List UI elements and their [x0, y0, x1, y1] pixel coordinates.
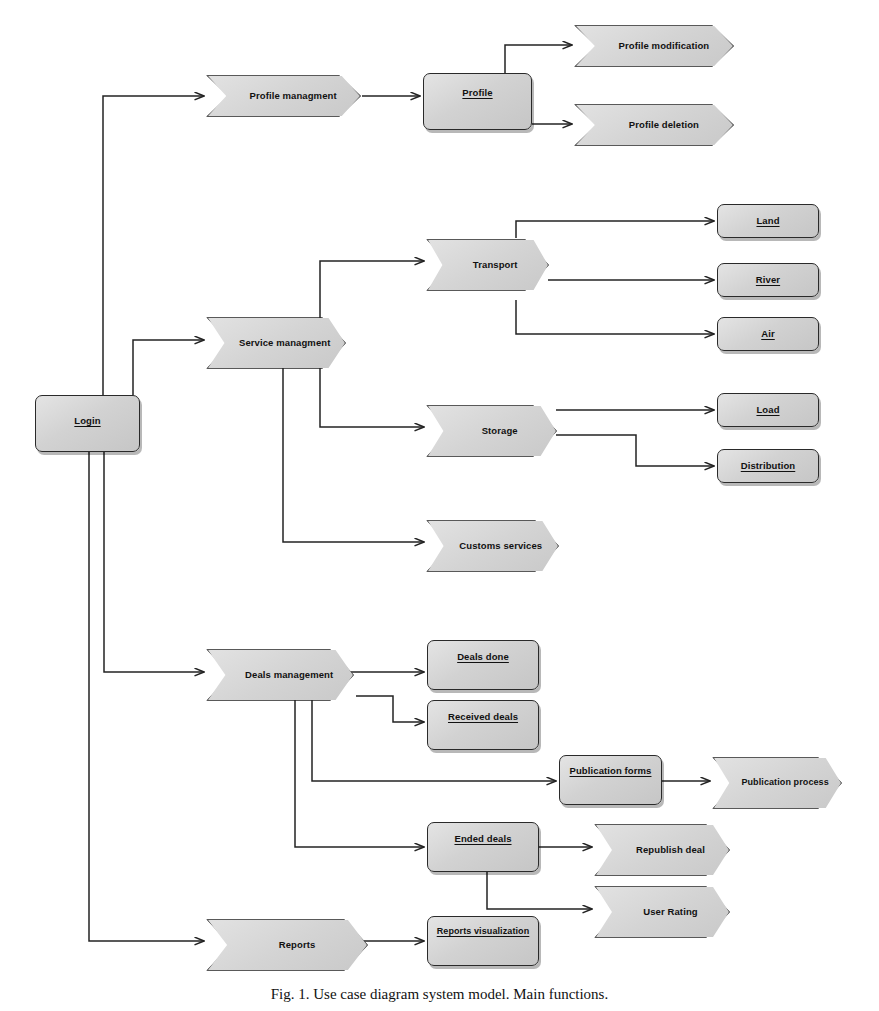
node-reports[interactable]: Reports	[208, 920, 367, 970]
node-received-deals-body	[427, 700, 539, 750]
edge-login-service-management	[133, 340, 204, 395]
node-service-management-body	[208, 318, 345, 368]
node-distribution-body	[717, 449, 819, 483]
edge-profile-profile-modification	[505, 45, 572, 73]
node-customs-services[interactable]: Customs services	[428, 521, 558, 571]
node-load[interactable]: Load	[717, 393, 819, 427]
node-deals-done-body	[427, 640, 539, 690]
edge-login-profile-management	[103, 96, 204, 395]
node-reports-visualization[interactable]: Reports visualization	[427, 916, 539, 966]
node-profile-body	[423, 73, 532, 130]
node-deals-management-body	[208, 650, 353, 700]
node-reports-body	[208, 920, 367, 970]
edge-ended-deals-user-rating	[487, 872, 592, 909]
node-publication-forms[interactable]: Publication forms	[559, 755, 662, 805]
node-storage-body	[428, 406, 556, 456]
node-deals-management[interactable]: Deals management	[208, 650, 353, 700]
node-received-deals[interactable]: Received deals	[427, 700, 539, 750]
node-profile-modification-body	[576, 26, 733, 66]
node-river-body	[717, 263, 819, 297]
edge-service-management-customs-services	[283, 368, 424, 542]
node-profile-modification[interactable]: Profile modification	[576, 26, 733, 66]
node-distribution[interactable]: Distribution	[717, 449, 819, 483]
edge-storage-distribution	[556, 435, 714, 466]
node-user-rating[interactable]: User Rating	[596, 887, 729, 937]
edge-service-management-storage	[320, 368, 424, 427]
edge-deals-management-received-deals	[356, 696, 424, 722]
edge-deals-management-ended-deals	[295, 698, 424, 847]
edge-transport-air	[516, 300, 714, 334]
node-service-management[interactable]: Service managment	[208, 318, 345, 368]
node-reports-visualization-body	[427, 916, 539, 966]
node-air[interactable]: Air	[717, 317, 819, 351]
node-profile-deletion-body	[576, 105, 733, 145]
figure-caption: Fig. 1. Use case diagram system model. M…	[0, 986, 879, 1003]
node-air-body	[717, 317, 819, 351]
node-republish-deal-body	[596, 825, 729, 875]
node-publication-forms-body	[559, 755, 662, 805]
node-load-body	[717, 393, 819, 427]
node-profile-deletion[interactable]: Profile deletion	[576, 105, 733, 145]
node-publication-process[interactable]: Publication process	[714, 758, 841, 808]
node-publication-process-body	[714, 758, 841, 808]
node-land-body	[717, 204, 819, 238]
node-user-rating-body	[596, 887, 729, 937]
node-login-body	[35, 395, 140, 452]
node-storage[interactable]: Storage	[428, 406, 556, 456]
edge-service-management-transport	[320, 261, 424, 318]
node-deals-done[interactable]: Deals done	[427, 640, 539, 690]
node-river[interactable]: River	[717, 263, 819, 297]
node-transport-body	[428, 240, 548, 290]
node-login[interactable]: Login	[35, 395, 140, 452]
node-land[interactable]: Land	[717, 204, 819, 238]
node-customs-services-body	[428, 521, 558, 571]
edge-login-reports	[89, 452, 204, 941]
node-profile[interactable]: Profile	[423, 73, 532, 130]
node-republish-deal[interactable]: Republish deal	[596, 825, 729, 875]
node-ended-deals[interactable]: Ended deals	[427, 822, 539, 872]
edge-transport-land	[516, 221, 714, 238]
node-profile-management[interactable]: Profile managment	[208, 76, 360, 116]
diagram-canvas: Login Profile managment Profile Profile …	[0, 0, 879, 1011]
node-transport[interactable]: Transport	[428, 240, 548, 290]
edge-login-deals-management	[104, 452, 204, 672]
node-ended-deals-body	[427, 822, 539, 872]
node-profile-management-body	[208, 76, 360, 116]
